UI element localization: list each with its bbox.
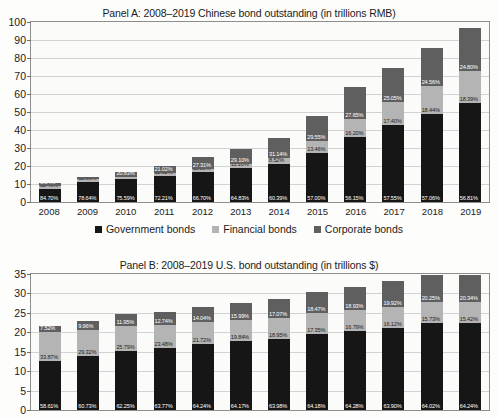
bar-segment-government[interactable]: 72.21% <box>154 176 176 202</box>
bar-segment-government[interactable]: 60.39% <box>268 164 290 202</box>
bar-segment-government[interactable]: 63.77% <box>154 348 176 410</box>
legend-item-corporate[interactable]: Corporate bonds <box>314 223 403 235</box>
bar-segment-financial[interactable]: 16.20% <box>344 119 366 138</box>
bar-segment-government[interactable]: 64.83% <box>230 168 252 202</box>
bar-segment-corporate[interactable]: 27.65% <box>344 87 366 119</box>
bar-column[interactable]: 18.93%16.79%64.28% <box>344 274 366 410</box>
bar-segment-label: 31.14% <box>269 151 287 157</box>
bar-segment-government[interactable]: 64.24% <box>192 344 214 410</box>
bar-column[interactable]: 17.07%18.95%63.98% <box>268 274 290 410</box>
bar-segment-government[interactable]: 56.15% <box>344 137 366 202</box>
bar-segment-label: 16.12% <box>383 321 401 327</box>
bar-column[interactable]: 27.65%16.20%56.15% <box>344 22 366 202</box>
bar-column[interactable]: 24.80%18.39%56.81% <box>459 22 481 202</box>
bar-column[interactable]: 20.83%10.33%75.59% <box>115 22 137 202</box>
bar-segment-corporate[interactable]: 25.05% <box>382 68 404 102</box>
bar-segment-corporate[interactable]: 24.80% <box>459 28 481 71</box>
bar-segment-label: 12.36% <box>78 179 96 181</box>
bar-column[interactable]: 15.99%19.84%64.17% <box>230 274 252 410</box>
bar-segment-corporate[interactable]: 24.56% <box>421 48 443 86</box>
bar-segment-financial[interactable]: 23.48% <box>154 325 176 348</box>
bar-segment-corporate[interactable]: 15.99% <box>230 303 252 320</box>
bar-segment-financial[interactable]: 15.73% <box>421 302 443 323</box>
bar-segment-financial[interactable]: 17.40% <box>382 102 404 125</box>
bar-segment-corporate[interactable]: 9.96% <box>77 321 99 330</box>
bar-segment-corporate[interactable]: 18.93% <box>344 287 366 310</box>
bar-segment-corporate[interactable]: 20.34% <box>459 275 481 303</box>
bar-column[interactable]: 14.04%21.72%64.24% <box>192 274 214 410</box>
bar-segment-government[interactable]: 64.17% <box>230 341 252 410</box>
bar-segment-government[interactable]: 66.70% <box>192 172 214 202</box>
bar-segment-financial[interactable]: 21.72% <box>192 322 214 344</box>
bar-segment-financial[interactable]: 25.79% <box>115 326 137 351</box>
bar-segment-financial[interactable]: 17.35% <box>306 313 328 334</box>
bar-segment-financial[interactable]: 16.79% <box>344 310 366 331</box>
bar-segment-government[interactable]: 63.90% <box>382 328 404 410</box>
bar-segment-corporate[interactable]: 14.04% <box>192 307 214 321</box>
bar-column[interactable]: 27.31%11.50%66.70% <box>192 22 214 202</box>
legend-label: Government bonds <box>106 223 195 235</box>
bar-segment-financial[interactable]: 33.87% <box>39 332 61 360</box>
bar-segment-corporate[interactable]: 17.07% <box>268 299 290 318</box>
bar-column[interactable]: 20.34%15.42%64.24% <box>459 274 481 410</box>
bar-column[interactable]: 3.84%11.46%84.70% <box>39 22 61 202</box>
x-axis-tick-label: 2019 <box>460 206 482 217</box>
bar-segment-corporate[interactable]: 29.10% <box>230 149 252 164</box>
bar-segment-government[interactable]: 62.25% <box>115 351 137 410</box>
bar-segment-government[interactable]: 57.06% <box>421 114 443 202</box>
bar-segment-financial[interactable]: 18.95% <box>268 318 290 339</box>
bar-column[interactable]: 24.56%18.44%57.06% <box>421 22 443 202</box>
bar-segment-government[interactable]: 64.02% <box>421 323 443 410</box>
x-axis-tick-label: 2018 <box>421 206 443 217</box>
bar-segment-label: 56.81% <box>460 195 478 201</box>
bar-segment-financial[interactable]: 19.84% <box>230 320 252 341</box>
bar-column[interactable]: 12.74%23.48%63.77% <box>154 274 176 410</box>
bar-segment-government[interactable]: 84.70% <box>39 189 61 202</box>
bar-column[interactable]: 19.92%16.12%63.90% <box>382 274 404 410</box>
bar-column[interactable]: 29.55%13.46%57.00% <box>306 22 328 202</box>
bar-segment-corporate[interactable]: 20.25% <box>421 275 443 302</box>
legend-item-government[interactable]: Government bonds <box>95 223 195 235</box>
bar-segment-government[interactable]: 78.64% <box>77 182 99 202</box>
bar-column[interactable]: 31.14%8.52%60.39% <box>268 22 290 202</box>
bar-column[interactable]: 9.96%29.32%60.73% <box>77 274 99 410</box>
bar-column[interactable]: 20.25%15.73%64.02% <box>421 274 443 410</box>
bar-column[interactable]: 11.95%25.79%62.25% <box>115 274 137 410</box>
legend-item-financial[interactable]: Financial bonds <box>212 223 297 235</box>
bar-segment-corporate[interactable]: 11.95% <box>115 314 137 325</box>
bar-segment-financial[interactable]: 18.44% <box>421 86 443 114</box>
bar-segment-corporate[interactable]: 31.14% <box>268 138 290 158</box>
bar-column[interactable]: 7.52%33.87%58.61% <box>39 274 61 410</box>
bar-column[interactable]: 25.05%17.40%57.55% <box>382 22 404 202</box>
bar-segment-government[interactable]: 63.98% <box>268 339 290 410</box>
bar-segment-government[interactable]: 75.59% <box>115 179 137 202</box>
bar-segment-corporate[interactable]: 18.47% <box>306 292 328 314</box>
bar-column[interactable]: 21.02%11.02%72.21% <box>154 22 176 202</box>
bar-segment-government[interactable]: 57.55% <box>382 125 404 202</box>
bar-segment-government[interactable]: 57.00% <box>306 153 328 202</box>
bar-segment-government[interactable]: 64.24% <box>459 323 481 410</box>
bar-segment-financial[interactable]: 29.32% <box>77 330 99 356</box>
bar-segment-corporate[interactable]: 21.02% <box>154 166 176 173</box>
bar-segment-label: 19.92% <box>383 300 401 306</box>
bar-segment-corporate[interactable]: 27.31% <box>192 157 214 169</box>
bar-segment-government[interactable]: 64.28% <box>344 331 366 410</box>
bar-segment-label: 8.52% <box>269 158 284 162</box>
bar-column[interactable]: 29.10%11.10%64.83% <box>230 22 252 202</box>
bar-segment-government[interactable]: 58.61% <box>39 361 61 410</box>
bar-column[interactable]: 9.00%12.36%78.64% <box>77 22 99 202</box>
bar-segment-financial[interactable]: 15.42% <box>459 302 481 323</box>
bar-column[interactable]: 18.47%17.35%64.18% <box>306 274 328 410</box>
bar-segment-financial[interactable]: 13.46% <box>306 141 328 153</box>
bar-segment-corporate[interactable]: 12.74% <box>154 312 176 324</box>
bar-segment-government[interactable]: 64.18% <box>306 334 328 410</box>
bar-segment-financial[interactable]: 16.12% <box>382 307 404 328</box>
bar-segment-label: 17.40% <box>383 118 401 124</box>
bar-segment-corporate[interactable]: 19.92% <box>382 281 404 307</box>
bar-segment-government[interactable]: 56.81% <box>459 103 481 202</box>
bar-segment-corporate[interactable]: 29.55% <box>306 116 328 141</box>
bar-segment-government[interactable]: 60.73% <box>77 356 99 410</box>
bar-segment-financial[interactable]: 18.39% <box>459 71 481 103</box>
bar-segment-label: 66.70% <box>193 195 211 201</box>
bar-segment-label: 25.05% <box>383 95 401 101</box>
